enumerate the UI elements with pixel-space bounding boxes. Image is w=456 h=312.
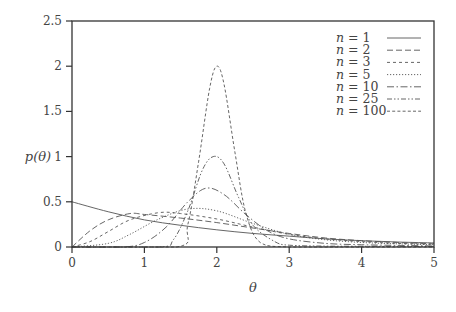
x-tick-label: 4 — [358, 256, 366, 270]
legend: n = 1n = 2n = 3n = 5n = 10n = 25n = 100 — [336, 30, 421, 118]
x-tick-label: 3 — [285, 256, 293, 270]
curve-n-10 — [72, 188, 434, 247]
y-tick-label: 2.5 — [43, 14, 62, 28]
x-axis-label: θ — [249, 280, 257, 295]
x-tick-label: 2 — [213, 256, 221, 270]
y-tick-label: 1 — [54, 150, 62, 164]
plot-frame — [72, 21, 434, 247]
legend-item: n = 100 — [336, 103, 421, 118]
x-tick-label: 0 — [68, 256, 76, 270]
y-tick-label: 2 — [54, 59, 62, 73]
curve-n-1 — [72, 202, 434, 243]
density-chart: 012345 00.511.522.5 θ p(θ) n = 1n = 2n =… — [0, 0, 456, 312]
y-tick-label: 0.5 — [43, 195, 62, 209]
y-axis-ticks: 00.511.522.5 — [43, 14, 72, 254]
y-axis-label: p(θ) — [25, 149, 51, 164]
y-tick-label: 0 — [54, 240, 62, 254]
curve-n-100 — [72, 66, 434, 247]
x-tick-label: 1 — [141, 256, 149, 270]
legend-label: n = 100 — [336, 103, 386, 118]
density-curves — [72, 66, 434, 247]
curve-n-2 — [72, 213, 434, 247]
x-axis-ticks: 012345 — [68, 247, 438, 270]
x-tick-label: 5 — [430, 256, 438, 270]
y-tick-label: 1.5 — [43, 104, 62, 118]
